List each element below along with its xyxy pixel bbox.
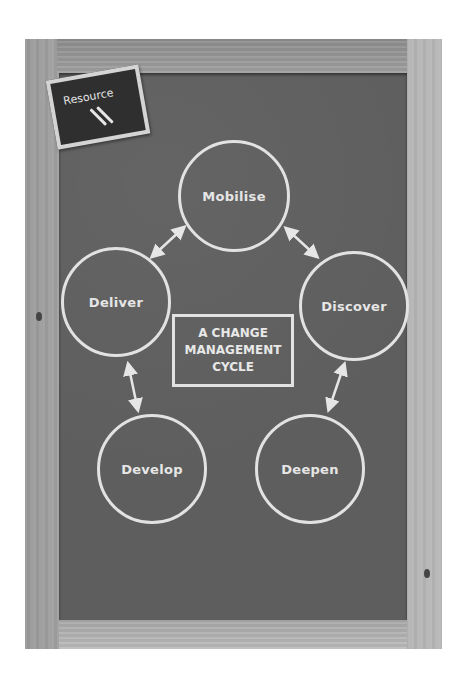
arrow-mobilise-discover — [289, 231, 314, 254]
diagram-title-box: A CHANGE MANAGEMENT CYCLE — [172, 314, 294, 387]
stage-develop: Develop — [97, 414, 207, 524]
stage-mobilise: Mobilise — [178, 140, 290, 252]
arrow-discover-deepen — [330, 368, 343, 406]
stage-label: Deepen — [281, 462, 339, 477]
stage-label: Deliver — [89, 295, 143, 310]
stage-label: Discover — [321, 299, 387, 314]
title-line: CYCLE — [212, 359, 254, 376]
stage-label: Mobilise — [202, 189, 266, 204]
stage-discover: Discover — [299, 251, 409, 361]
title-line: A CHANGE — [198, 325, 268, 342]
title-line: MANAGEMENT — [185, 342, 282, 359]
stage-label: Develop — [121, 462, 183, 477]
stage-deepen: Deepen — [255, 414, 365, 524]
arrow-deliver-mobilise — [155, 230, 181, 254]
arrow-deliver-develop — [129, 368, 137, 406]
stage-deliver: Deliver — [61, 247, 171, 357]
